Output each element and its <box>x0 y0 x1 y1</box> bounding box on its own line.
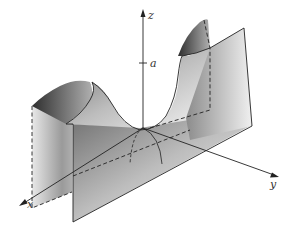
surface-diagram: z a y x <box>0 0 290 230</box>
y-arrowhead <box>270 173 279 178</box>
z-arrowhead <box>141 9 146 17</box>
z-axis-label: z <box>147 9 154 22</box>
y-axis-label: y <box>269 178 277 191</box>
x-axis-label: x <box>27 198 34 211</box>
a-tick-label: a <box>150 57 157 70</box>
